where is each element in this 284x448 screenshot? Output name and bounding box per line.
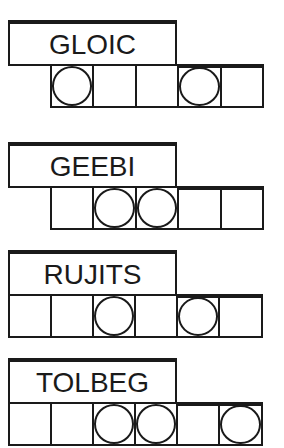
answer-cell-6[interactable] bbox=[218, 294, 262, 338]
circle-marker-icon bbox=[94, 188, 134, 228]
answer-cell-2[interactable] bbox=[92, 64, 136, 108]
answer-cell-3[interactable] bbox=[92, 294, 136, 338]
answer-cells bbox=[50, 186, 264, 230]
answer-cell-3[interactable] bbox=[135, 64, 179, 108]
answer-cell-4[interactable] bbox=[134, 294, 178, 338]
circle-marker-icon bbox=[179, 67, 219, 106]
answer-cell-2[interactable] bbox=[50, 294, 94, 338]
answer-cell-5[interactable] bbox=[220, 64, 264, 108]
scrambled-word-box: GEEBI bbox=[8, 142, 177, 188]
circle-marker-icon bbox=[136, 404, 176, 444]
circle-marker-icon bbox=[220, 405, 260, 444]
answer-cell-2[interactable] bbox=[50, 402, 94, 446]
circle-marker-icon bbox=[94, 404, 134, 444]
answer-cell-3[interactable] bbox=[92, 402, 136, 446]
scrambled-word-box: RUJITS bbox=[8, 250, 177, 296]
answer-cells bbox=[8, 402, 263, 446]
circle-marker-icon bbox=[94, 296, 134, 336]
answer-cell-6[interactable] bbox=[218, 402, 262, 446]
answer-cell-4[interactable] bbox=[177, 186, 221, 230]
answer-cell-1[interactable] bbox=[50, 186, 94, 230]
answer-cell-4[interactable] bbox=[134, 402, 178, 446]
answer-cells bbox=[8, 294, 263, 338]
answer-cell-5[interactable] bbox=[220, 186, 264, 230]
answer-cell-1[interactable] bbox=[8, 294, 52, 338]
scrambled-word: RUJITS bbox=[44, 260, 142, 289]
scrambled-word: GLOIC bbox=[49, 30, 136, 59]
answer-cell-1[interactable] bbox=[50, 64, 94, 108]
answer-cell-1[interactable] bbox=[8, 402, 52, 446]
scrambled-word: TOLBEG bbox=[36, 368, 149, 397]
answer-cell-2[interactable] bbox=[92, 186, 136, 230]
circle-marker-icon bbox=[52, 66, 92, 106]
answer-cell-5[interactable] bbox=[176, 402, 220, 446]
circle-marker-icon bbox=[137, 188, 177, 228]
circle-marker-icon bbox=[178, 297, 218, 336]
answer-cell-4[interactable] bbox=[177, 64, 221, 108]
answer-cells bbox=[50, 64, 264, 108]
answer-cell-3[interactable] bbox=[135, 186, 179, 230]
scrambled-word-box: GLOIC bbox=[8, 20, 177, 66]
scrambled-word: GEEBI bbox=[50, 152, 136, 181]
answer-cell-5[interactable] bbox=[176, 294, 220, 338]
scrambled-word-box: TOLBEG bbox=[8, 358, 177, 404]
